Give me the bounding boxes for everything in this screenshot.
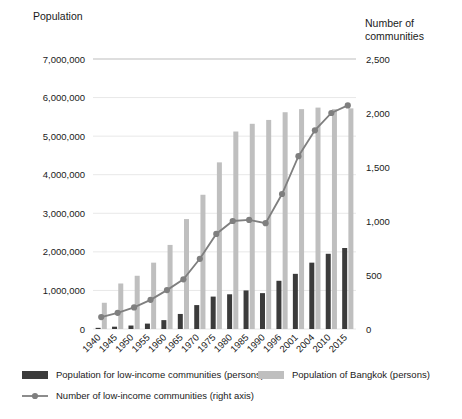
bar-low-income-population xyxy=(211,297,216,329)
bar-low-income-population xyxy=(309,263,314,329)
right-axis-title-line2: communities xyxy=(365,30,424,42)
right-axis-tick: 1,500 xyxy=(366,162,390,173)
right-axis-tick: 1,000 xyxy=(366,216,390,227)
legend-label: Population of Bangkok (persons) xyxy=(292,369,430,380)
left-axis-title: Population xyxy=(33,10,83,22)
legend-swatch xyxy=(258,371,284,379)
bar-low-income-population xyxy=(145,324,150,329)
bar-bangkok-population xyxy=(233,132,238,329)
left-axis-tick: 4,000,000 xyxy=(43,169,85,180)
communities-data-point xyxy=(230,218,236,224)
communities-data-point xyxy=(262,220,268,226)
communities-data-point xyxy=(328,110,334,116)
communities-data-point xyxy=(312,127,318,133)
bar-bangkok-population xyxy=(348,108,353,329)
chart-container: 01,000,0002,000,0003,000,0004,000,0005,0… xyxy=(0,0,462,419)
bar-low-income-population xyxy=(326,254,331,329)
bar-low-income-population xyxy=(128,326,133,329)
communities-data-point xyxy=(147,297,153,303)
left-axis-tick: 3,000,000 xyxy=(43,208,85,219)
bar-bangkok-population xyxy=(200,195,205,329)
communities-data-point xyxy=(98,314,104,320)
right-axis-tick: 0 xyxy=(366,324,371,335)
communities-data-point xyxy=(131,304,137,310)
bar-bangkok-population xyxy=(118,283,123,329)
left-axis-tick: 7,000,000 xyxy=(43,54,85,65)
legend-marker-dot xyxy=(32,393,38,399)
left-axis-tick: 0 xyxy=(80,324,85,335)
bar-low-income-population xyxy=(227,294,232,329)
communities-data-point xyxy=(295,153,301,159)
communities-data-point xyxy=(345,102,351,108)
bar-low-income-population xyxy=(293,274,298,329)
population-communities-chart: 01,000,0002,000,0003,000,0004,000,0005,0… xyxy=(0,0,462,419)
bar-bangkok-population xyxy=(250,124,255,329)
right-axis-tick: 2,500 xyxy=(366,54,390,65)
communities-data-point xyxy=(180,276,186,282)
right-axis-tick: 500 xyxy=(366,270,382,281)
bar-bangkok-population xyxy=(316,108,321,329)
bar-bangkok-population xyxy=(217,162,222,329)
bar-bangkok-population xyxy=(299,109,304,329)
communities-data-point xyxy=(213,231,219,237)
left-axis-tick: 2,000,000 xyxy=(43,246,85,257)
legend-label: Population for low-income communities (p… xyxy=(56,369,264,380)
bar-low-income-population xyxy=(244,290,249,329)
left-axis-tick: 6,000,000 xyxy=(43,92,85,103)
bar-low-income-population xyxy=(194,305,199,329)
bar-bangkok-population xyxy=(135,276,140,329)
right-axis-tick: 2,000 xyxy=(366,108,390,119)
communities-data-point xyxy=(164,287,170,293)
legend-label: Number of low-income communities (right … xyxy=(56,390,254,401)
left-axis-tick: 1,000,000 xyxy=(43,285,85,296)
bar-low-income-population xyxy=(96,328,101,329)
communities-data-point xyxy=(197,256,203,262)
bar-low-income-population xyxy=(276,281,281,329)
communities-data-point xyxy=(115,310,121,316)
bar-low-income-population xyxy=(112,327,117,329)
bar-bangkok-population xyxy=(283,112,288,329)
communities-data-point xyxy=(246,217,252,223)
communities-data-point xyxy=(279,191,285,197)
bar-low-income-population xyxy=(260,293,265,329)
right-axis-title-line1: Number of xyxy=(365,17,414,29)
bar-bangkok-population xyxy=(151,263,156,329)
bar-low-income-population xyxy=(342,248,347,329)
left-axis-tick: 5,000,000 xyxy=(43,131,85,142)
bar-bangkok-population xyxy=(332,109,337,329)
legend-swatch xyxy=(22,371,48,379)
bar-low-income-population xyxy=(161,320,166,329)
bar-low-income-population xyxy=(178,314,183,329)
